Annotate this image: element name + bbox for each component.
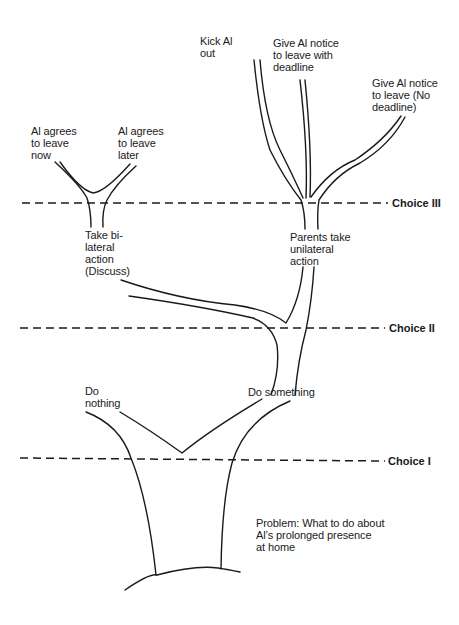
node-notice-deadline: Give Al notice to leave with deadline <box>273 37 339 73</box>
node-do-nothing: Do nothing <box>85 385 120 409</box>
node-kick-out: Kick Al out <box>200 35 232 59</box>
node-agree-later: Al agrees to leave later <box>118 125 164 161</box>
choice-1-label: Choice I <box>388 455 431 467</box>
ground-arc <box>125 567 240 590</box>
node-notice-no-deadline: Give Al notice to leave (No deadline) <box>372 77 438 113</box>
trunk-left-edge <box>86 412 156 575</box>
node-unilateral: Parents take unilateral action <box>290 231 351 267</box>
unilateral-stem-right <box>318 117 405 229</box>
choice-1-line <box>20 458 385 461</box>
no-deadline-inner <box>311 116 401 197</box>
node-bilateral: Take bi- lateral action (Discuss) <box>85 229 130 277</box>
bilateral-stem-left <box>55 162 91 227</box>
node-problem: Problem: What to do about Al’s prolonged… <box>256 517 384 553</box>
do-something-right-edge <box>295 267 314 395</box>
choice-3-label: Choice III <box>392 197 441 209</box>
do-something-left-edge <box>129 296 278 395</box>
kick-out-inner <box>260 60 303 198</box>
notice-deadline-left <box>300 80 306 198</box>
node-agree-now: Al agrees to leave now <box>31 125 77 161</box>
node-do-something: Do something <box>248 386 315 398</box>
do-something-crotch <box>121 267 303 323</box>
choice-2-label: Choice II <box>389 322 435 334</box>
trunk-crotch <box>120 399 262 453</box>
